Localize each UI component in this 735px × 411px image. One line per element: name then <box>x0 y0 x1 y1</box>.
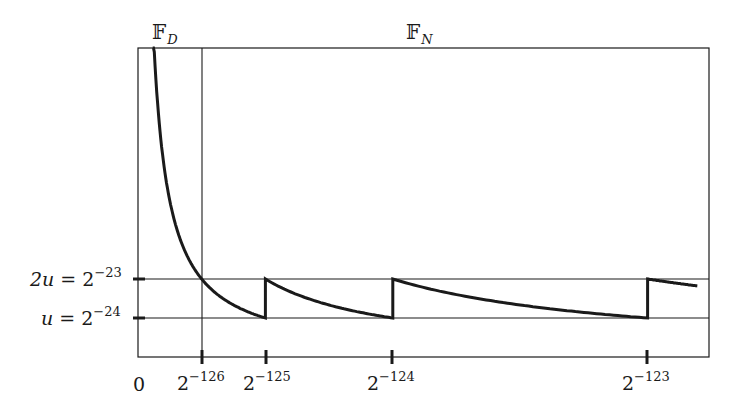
x-label-2-126-base: 2 <box>177 372 189 394</box>
x-label-2-124-base: 2 <box>367 372 379 394</box>
y-label-u-lhs: u <box>41 307 53 329</box>
relative-spacing-curve <box>153 48 698 318</box>
plot-frame <box>138 48 709 357</box>
y-label-2u-lhs: 2u <box>30 268 54 290</box>
x-label-0-text: 0 <box>133 373 145 395</box>
x-label-2-125-exp: −125 <box>255 369 291 384</box>
x-label-2-126-exp: −126 <box>189 369 225 384</box>
y-label-2u-exp: −23 <box>94 265 121 280</box>
subnormal-region-label: 𝔽D <box>152 22 178 42</box>
y-label-2u-base: = 2 <box>54 268 94 290</box>
x-label-2-123-base: 2 <box>622 372 634 394</box>
x-label-2-126: 2−126 <box>177 372 225 393</box>
x-label-0: 0 <box>133 375 145 394</box>
fd-symbol: 𝔽 <box>152 20 166 44</box>
relative-spacing-chart <box>0 0 735 411</box>
fd-subscript: D <box>167 32 177 47</box>
y-label-u-base: = 2 <box>53 307 93 329</box>
x-label-2-125-base: 2 <box>243 372 255 394</box>
x-label-2-123: 2−123 <box>622 372 670 393</box>
x-label-2-123-exp: −123 <box>634 369 670 384</box>
x-label-2-125: 2−125 <box>243 372 291 393</box>
normalized-region-label: 𝔽N <box>406 22 433 42</box>
y-label-2u: 2u = 2−23 <box>30 268 122 289</box>
x-label-2-124-exp: −124 <box>379 369 415 384</box>
y-label-u: u = 2−24 <box>41 307 121 328</box>
fn-subscript: N <box>421 32 432 47</box>
x-label-2-124: 2−124 <box>367 372 415 393</box>
y-label-u-exp: −24 <box>93 304 120 319</box>
fn-symbol: 𝔽 <box>406 20 420 44</box>
